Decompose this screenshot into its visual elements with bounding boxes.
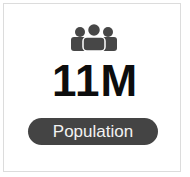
stat-label-pill: Population <box>28 118 158 145</box>
stat-value: 11M <box>0 59 190 103</box>
people-group-icon <box>70 24 118 51</box>
